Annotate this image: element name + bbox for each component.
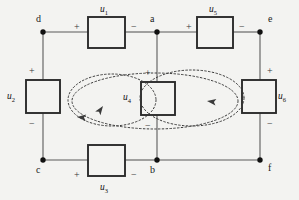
polarity-minus-u1: − — [131, 22, 137, 32]
node-label-e: e — [268, 14, 272, 24]
polarity-plus-u3: + — [74, 170, 80, 180]
component-boxes-group — [26, 17, 276, 176]
polarity-minus-u5: − — [239, 22, 245, 32]
node-label-a: a — [150, 14, 154, 24]
node-dot-e — [257, 29, 262, 34]
right-mesh-loop-direction-arrow-icon — [207, 98, 217, 106]
element-label-u6: u6 — [278, 92, 286, 103]
element-subscript-u3: 3 — [105, 187, 108, 194]
element-label-u1: u1 — [100, 5, 108, 16]
circuit-diagram-figure: daecbf u1u5u2u6u4u3 +−+−+−+−+−+− — [0, 0, 299, 200]
polarity-plus-u5: + — [186, 22, 192, 32]
node-label-f: f — [268, 163, 271, 173]
mesh-loops-group — [68, 70, 244, 129]
node-dot-d — [40, 29, 45, 34]
node-dot-c — [40, 157, 45, 162]
component-box-u2 — [26, 80, 60, 113]
element-subscript-u1: 1 — [105, 9, 108, 16]
component-box-u1 — [88, 17, 125, 48]
polarity-minus-u6: − — [267, 119, 273, 129]
node-label-b: b — [150, 165, 155, 175]
component-box-u6 — [242, 80, 276, 113]
component-box-u4 — [141, 82, 175, 115]
element-subscript-u5: 5 — [214, 9, 217, 16]
element-subscript-u6: 6 — [283, 96, 286, 103]
node-dot-b — [154, 157, 159, 162]
element-label-u3: u3 — [100, 183, 108, 194]
component-box-u3 — [88, 145, 125, 176]
node-label-c: c — [36, 165, 40, 175]
polarity-plus-u1: + — [74, 22, 80, 32]
element-subscript-u2: 2 — [12, 96, 15, 103]
element-label-u5: u5 — [209, 5, 217, 16]
element-label-u2: u2 — [7, 92, 15, 103]
polarity-minus-u3: − — [131, 170, 137, 180]
node-dot-f — [257, 157, 262, 162]
polarity-plus-u4: + — [145, 68, 151, 78]
element-label-u4: u4 — [123, 93, 131, 104]
polarity-plus-u2: + — [29, 66, 35, 76]
element-subscript-u4: 4 — [128, 97, 131, 104]
polarity-minus-u4: − — [145, 121, 151, 131]
component-box-u5 — [197, 17, 233, 48]
polarity-plus-u6: + — [267, 66, 273, 76]
outer-mesh-loop-direction-arrow-icon — [77, 114, 87, 121]
node-dot-a — [154, 29, 159, 34]
polarity-minus-u2: − — [29, 119, 35, 129]
left-mesh-loop-direction-arrow-icon — [95, 104, 105, 115]
node-label-d: d — [36, 14, 41, 24]
